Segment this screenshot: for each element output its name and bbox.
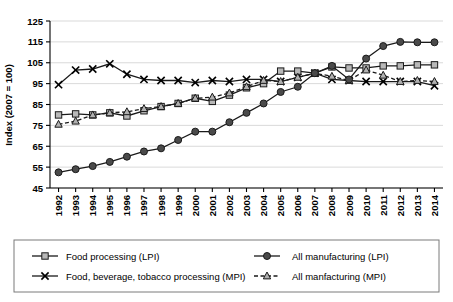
x-tick-label: 2002 [224, 195, 235, 216]
series-line [59, 42, 435, 172]
marker-circle [123, 153, 130, 160]
y-axis-title: Index (2007 = 100) [3, 64, 14, 146]
x-tick-label: 1995 [104, 194, 115, 216]
chart-container: 455565758595105115125 199219931994199519… [0, 0, 453, 302]
x-tick-label: 2007 [309, 195, 320, 216]
x-tick-label: 1997 [138, 195, 149, 216]
x-tick-label: 2004 [258, 194, 269, 216]
marker-square [277, 68, 283, 74]
legend-label: All manufacturing (LPI) [292, 251, 389, 262]
x-tick-label: 1992 [53, 195, 64, 216]
y-tick-label: 55 [32, 162, 43, 173]
marker-circle [209, 128, 216, 135]
data-series [55, 38, 438, 175]
marker-square [55, 112, 61, 118]
marker-circle [192, 128, 199, 135]
marker-circle [380, 43, 387, 50]
marker-circle [158, 145, 165, 152]
marker-circle [72, 166, 79, 173]
x-tick-label: 2001 [207, 194, 218, 216]
y-tick-label: 65 [32, 141, 43, 152]
x-tick-label: 2003 [241, 195, 252, 216]
y-tick-label: 85 [32, 99, 43, 110]
marker-x [123, 71, 130, 78]
marker-square [414, 62, 420, 68]
marker-circle [140, 148, 147, 155]
marker-square [397, 63, 403, 69]
marker-circle [106, 158, 113, 165]
y-tick-label: 115 [28, 36, 44, 47]
x-tick-label: 2012 [395, 195, 406, 216]
x-tick-label: 1998 [156, 195, 167, 216]
x-tick-label: 2010 [361, 195, 372, 216]
line-chart: 455565758595105115125 199219931994199519… [0, 0, 453, 302]
marker-circle [397, 38, 404, 45]
legend-label: Food, beverage, tobacco processing (MPI) [66, 271, 246, 282]
y-tick-label: 45 [32, 183, 43, 194]
series-all-manfacturing-mpi [55, 66, 438, 127]
x-tick-label: 2000 [190, 195, 201, 216]
series-all-manufacturing-lpi [55, 38, 438, 175]
legend-label: All manfacturing (MPI) [292, 271, 386, 282]
marker-circle [294, 83, 301, 90]
marker-circle [55, 169, 62, 176]
x-tick-label: 1999 [173, 195, 184, 216]
x-tick-label: 2006 [292, 195, 303, 216]
marker-circle [277, 88, 284, 95]
y-tick-label: 75 [32, 120, 43, 131]
marker-circle [243, 109, 250, 116]
marker-square [72, 111, 78, 117]
x-tick-label: 2009 [344, 195, 355, 216]
marker-circle [363, 55, 370, 62]
x-tick-label: 2005 [275, 194, 286, 216]
marker-x [55, 81, 62, 88]
marker-circle [264, 253, 271, 260]
marker-circle [414, 39, 421, 46]
chart-legend: Food processing (LPI)All manufacturing (… [14, 240, 439, 292]
marker-square [380, 63, 386, 69]
marker-circle [311, 70, 318, 77]
y-axis-ticks: 455565758595105115125 [27, 16, 50, 194]
x-tick-label: 1993 [70, 195, 81, 216]
y-tick-label: 105 [27, 57, 44, 68]
marker-circle [89, 163, 96, 170]
x-tick-label: 1996 [121, 195, 132, 216]
y-tick-label: 125 [27, 16, 44, 27]
marker-x [106, 60, 113, 67]
x-tick-label: 1994 [87, 194, 98, 216]
legend-border [14, 240, 439, 292]
x-tick-label: 2011 [378, 194, 389, 215]
marker-circle [431, 39, 438, 46]
x-tick-label: 2013 [412, 195, 423, 216]
marker-circle [260, 100, 267, 107]
marker-circle [328, 62, 335, 69]
marker-circle [346, 76, 353, 83]
marker-square [431, 62, 437, 68]
marker-circle [175, 136, 182, 143]
marker-square [42, 253, 48, 259]
x-axis-ticks: 1992199319941995199619971998199920002001… [53, 188, 440, 216]
x-tick-label: 2008 [326, 195, 337, 216]
y-tick-label: 95 [32, 78, 43, 89]
marker-circle [226, 119, 233, 126]
legend-label: Food processing (LPI) [66, 251, 159, 262]
x-tick-label: 2014 [429, 194, 440, 216]
marker-square [346, 65, 352, 71]
